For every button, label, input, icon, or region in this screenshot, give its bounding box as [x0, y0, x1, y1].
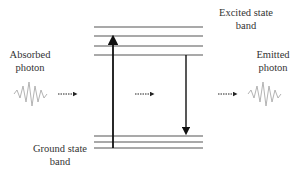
- excited-state-label: Excited state band: [206, 6, 286, 32]
- ground-state-band: [94, 136, 203, 148]
- absorbed-photon-label: Absorbed photon: [2, 48, 58, 74]
- ground-state-label: Ground state band: [28, 142, 92, 168]
- emitted-photon-label: Emitted photon: [248, 48, 298, 74]
- absorbed-photon-wave: [14, 82, 47, 106]
- emitted-photon-wave: [248, 82, 281, 106]
- excited-state-band: [94, 27, 203, 55]
